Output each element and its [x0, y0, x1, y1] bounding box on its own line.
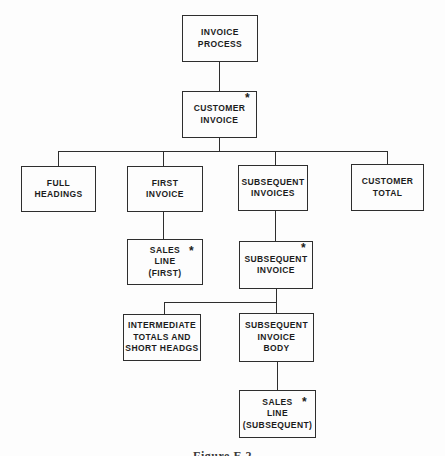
connector-level3-hbar: [58, 151, 388, 152]
structure-diagram: INVOICE PROCESS * CUSTOMER INVOICE FULL …: [0, 0, 445, 456]
node-subsequent-invoice: * SUBSEQUENT INVOICE: [239, 241, 313, 289]
node-customer-total: CUSTOMER TOTAL: [351, 164, 424, 211]
node-label: (FIRST): [148, 268, 181, 280]
connector-subsequent-invoice-drop: [276, 289, 277, 302]
node-label: SALES: [262, 397, 292, 409]
node-label: BODY: [263, 343, 289, 355]
node-label: INTERMEDIATE: [128, 320, 196, 332]
connector-subsequent-invoices-to-subsequent-invoice: [275, 211, 276, 241]
node-first-invoice: FIRST INVOICE: [127, 166, 203, 212]
node-label: INVOICE: [201, 115, 239, 127]
node-label: SALES: [150, 245, 180, 257]
figure-caption: Figure E.2: [0, 449, 445, 456]
node-label: TOTAL: [373, 188, 403, 200]
connector-stub-first-invoice: [163, 151, 164, 166]
node-label: SUBSEQUENT: [241, 177, 304, 189]
node-label: LINE: [155, 256, 176, 268]
node-label: PROCESS: [198, 39, 242, 51]
node-label: INVOICE: [257, 265, 295, 277]
node-label: HEADINGS: [34, 189, 82, 201]
connector-stub-full-headings: [58, 151, 59, 166]
node-subsequent-invoices: SUBSEQUENT INVOICES: [238, 165, 308, 211]
connector-stub-subsequent-invoices: [275, 151, 276, 165]
connector-process-to-customer-invoice: [219, 62, 220, 91]
connector-first-invoice-to-sales-line: [163, 212, 164, 239]
node-sales-line-subsequent: * SALES LINE (SUBSEQUENT): [239, 390, 316, 438]
iteration-asterisk: *: [245, 94, 250, 103]
connector-stub-intermediate-totals: [164, 302, 165, 314]
node-sales-line-first: * SALES LINE (FIRST): [127, 239, 203, 285]
node-label: FULL: [47, 178, 70, 190]
node-label: TOTALS AND: [133, 332, 191, 344]
connector-stub-invoice-body: [276, 302, 277, 313]
iteration-asterisk: *: [301, 244, 306, 253]
node-label: SUBSEQUENT: [244, 254, 307, 266]
iteration-asterisk: *: [302, 398, 307, 407]
node-label: INVOICE: [201, 27, 239, 39]
node-label: INVOICE: [146, 189, 184, 201]
iteration-asterisk: *: [189, 247, 194, 256]
node-label: CUSTOMER: [194, 103, 246, 115]
node-label: (SUBSEQUENT): [243, 420, 313, 432]
connector-customer-invoice-drop: [219, 138, 220, 152]
node-label: SUBSEQUENT: [245, 320, 308, 332]
node-subsequent-invoice-body: SUBSEQUENT INVOICE BODY: [239, 313, 314, 362]
node-invoice-process: INVOICE PROCESS: [182, 15, 258, 62]
connector-body-to-sales-line-subsequent: [277, 362, 278, 390]
node-full-headings: FULL HEADINGS: [21, 166, 96, 212]
node-label: INVOICES: [251, 188, 295, 200]
connector-level5-hbar: [164, 302, 277, 303]
node-label: CUSTOMER: [362, 176, 414, 188]
node-customer-invoice: * CUSTOMER INVOICE: [182, 91, 257, 138]
node-label: LINE: [267, 408, 288, 420]
connector-stub-customer-total: [387, 151, 388, 164]
node-intermediate-totals: INTERMEDIATE TOTALS AND SHORT HEADGS: [123, 314, 201, 361]
node-label: FIRST: [152, 178, 179, 190]
node-label: SHORT HEADGS: [125, 343, 198, 355]
node-label: INVOICE: [258, 332, 296, 344]
